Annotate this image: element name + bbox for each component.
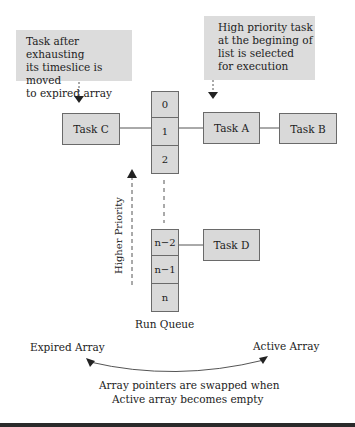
active-note-line-3: list is selected [218,47,315,60]
expired-note-line-2: its timeslice is moved [26,61,132,87]
expired-note-line-1: Task after exhausting [26,35,132,61]
run-queue-cell-0: 0 [151,91,179,118]
expired-note: Task after exhausting its timeslice is m… [16,30,132,81]
swap-arrow-right-head [259,356,268,364]
bottom-border-bar [0,423,355,427]
swap-note-line-2: Active array becomes empty [112,393,263,405]
swap-curve [90,360,264,372]
run-queue-cell-n: n [151,283,179,312]
run-queue-label: Run Queue [135,318,194,330]
active-array-label: Active Array [253,340,319,352]
task-c: Task C [62,113,120,145]
task-a: Task A [203,112,260,144]
swap-note-line-1: Array pointers are swapped when [99,379,279,391]
run-queue-cell-2: 2 [151,145,179,174]
active-note: High priority task at the begining of li… [204,16,315,80]
expired-note-line-3: to expired array [26,87,132,100]
active-note-line-4: for execution [218,60,315,73]
task-b: Task B [279,113,337,144]
higher-priority-label: Higher Priority [113,197,124,274]
run-queue-cell-1: 1 [151,117,179,146]
run-queue-cell-n-minus-1: n−1 [151,255,179,284]
task-d: Task D [203,229,260,261]
active-note-line-2: at the begining of [218,34,315,47]
priority-arrow-head [127,169,137,178]
swap-arrow-left-head [86,358,95,367]
run-queue-cell-n-minus-2: n−2 [151,229,179,256]
active-note-arrow-head [208,92,218,99]
expired-array-label: Expired Array [30,341,105,353]
active-note-line-1: High priority task [218,21,315,34]
